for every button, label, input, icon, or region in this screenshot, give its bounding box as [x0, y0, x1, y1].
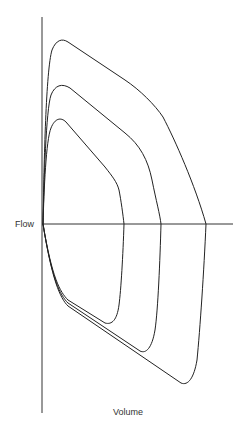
x-axis-label: Volume	[113, 407, 143, 417]
inner-loop	[43, 119, 124, 323]
y-axis-label: Flow	[15, 219, 34, 229]
middle-loop	[43, 85, 161, 351]
outer-loop	[43, 40, 206, 384]
flow-volume-diagram	[0, 0, 245, 433]
